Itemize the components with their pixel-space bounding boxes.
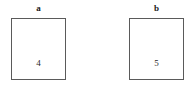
panel-box-b: 5 bbox=[129, 18, 184, 80]
panel-value-a: 4 bbox=[12, 57, 65, 69]
panel-label-b: b bbox=[129, 2, 184, 14]
figure-panel-a: a 4 bbox=[11, 0, 66, 93]
panel-box-a: 4 bbox=[11, 18, 66, 80]
figure-panel-b: b 5 bbox=[129, 0, 184, 93]
figure-container: a 4 b 5 bbox=[0, 0, 192, 93]
panel-value-b: 5 bbox=[130, 57, 183, 69]
panel-label-a: a bbox=[11, 2, 66, 14]
